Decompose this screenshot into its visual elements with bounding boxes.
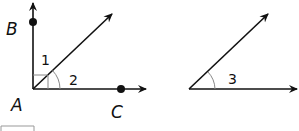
- angle-1-label: 1: [41, 52, 50, 68]
- partial-box: [1, 126, 34, 131]
- right-figure: 3: [189, 14, 297, 89]
- angle-2-label: 2: [69, 72, 78, 88]
- angle-2-arc: [53, 71, 61, 90]
- angle-diagram: B A C 1 2 3: [0, 0, 299, 131]
- angle-3-arc: [208, 72, 215, 89]
- label-C: C: [111, 102, 123, 122]
- angle-3-label: 3: [228, 71, 237, 87]
- left-figure: B A C 1 2: [6, 3, 146, 122]
- point-C: [117, 85, 125, 93]
- label-B: B: [6, 19, 18, 39]
- label-A: A: [10, 95, 23, 115]
- point-B: [29, 18, 37, 26]
